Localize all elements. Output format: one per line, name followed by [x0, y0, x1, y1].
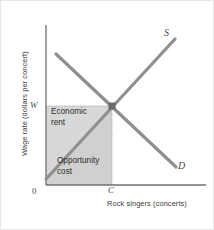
- demand-curve-label: D: [178, 160, 185, 171]
- x-tick-label-c: C: [108, 185, 114, 195]
- x-axis-title: Rock singers (concerts): [107, 199, 187, 208]
- y-tick-label-w: W: [30, 100, 38, 110]
- opportunity-cost-label: Opportunity cost: [57, 156, 99, 177]
- equilibrium-marker: [109, 103, 116, 110]
- supply-curve-label: S: [164, 27, 169, 38]
- economic-rent-label: Economic rent: [51, 107, 87, 128]
- origin-label: 0: [32, 186, 37, 196]
- y-axis-title: Wage rate (dollars per concert): [20, 29, 29, 179]
- supply-demand-chart: Wage rate (dollars per concert) Rock sin…: [0, 0, 214, 230]
